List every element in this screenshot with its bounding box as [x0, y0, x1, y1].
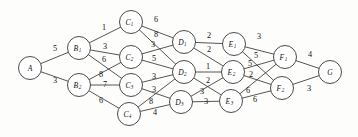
node-C1: C1 [120, 11, 143, 34]
edge-weight-F1-G: 4 [308, 50, 312, 59]
node-E1: E1 [223, 33, 246, 56]
edge-A-B1 [41, 52, 69, 63]
edge-C2-D2 [142, 60, 173, 69]
edge-C3-D2 [142, 75, 173, 83]
node-D2: D2 [173, 61, 196, 84]
edge-weight-A-B1: 5 [53, 44, 57, 53]
edge-weight-C2-D1: 3 [151, 40, 155, 49]
edge-weight-B2-C2: 8 [99, 70, 103, 79]
edge-weight-D2-E2: 1 [206, 62, 210, 71]
edge-C2-D1 [142, 45, 173, 54]
edge-weight-C3-D3: 3 [152, 85, 156, 94]
edge-weight-C4-D3: 4 [153, 108, 157, 117]
node-E2: E2 [222, 61, 245, 84]
network-diagram-canvas: 531368766835338422123335526643 AB1B2C1C2… [0, 0, 358, 137]
edge-B2-C2 [89, 62, 121, 79]
node-C4: C4 [118, 103, 141, 126]
edge-weight-B2-C4: 6 [99, 96, 103, 105]
node-F2: F2 [271, 77, 294, 100]
node-G: G [319, 61, 342, 84]
node-D1: D1 [173, 31, 196, 54]
node-D3: D3 [170, 91, 193, 114]
edge-weight-C3-D2: 3 [152, 72, 156, 81]
edge-weight-B1-C3: 6 [102, 55, 106, 64]
edge-weight-C4-D2: 8 [149, 97, 153, 106]
edge-weight-E1-F2: 5 [254, 51, 258, 60]
edge-weight-C1-D2: 8 [154, 30, 158, 39]
edge-weight-D1-E1: 2 [207, 31, 211, 40]
edge-weight-E3-F1: 6 [246, 86, 250, 95]
edge-F1-G [296, 61, 319, 69]
node-B2: B2 [68, 74, 91, 97]
node-label-A: A [27, 64, 33, 73]
node-F1: F1 [274, 46, 297, 69]
edge-weight-B2-C3: 7 [103, 80, 107, 89]
edge-weight-E1-F1: 3 [257, 32, 261, 41]
node-layer: AB1B2C1C2C3C4D1D2D3E1E2E3F1F2G [19, 11, 342, 126]
network-diagram-figure: 531368766835338422123335526643 AB1B2C1C2… [0, 0, 358, 137]
node-A: A [19, 57, 42, 80]
edge-E1-F1 [245, 47, 274, 54]
edge-weight-D1-E2: 2 [207, 45, 211, 54]
edge-weight-D3-E2: 3 [200, 87, 204, 96]
edge-weight-E2-F2: 2 [249, 70, 253, 79]
edge-D1-E1 [195, 42, 222, 43]
edge-weight-D3-E3: 3 [204, 97, 208, 106]
edge-weight-C1-D1: 6 [154, 15, 158, 24]
node-E3: E3 [220, 90, 243, 113]
node-B1: B1 [68, 37, 91, 60]
node-C3: C3 [120, 74, 143, 97]
edge-weight-C2-D2: 5 [152, 54, 156, 63]
node-label-G: G [327, 68, 333, 77]
edge-weight-F2-G: 3 [307, 84, 311, 93]
edge-B2-C4 [89, 91, 119, 108]
edge-weight-A-B2: 3 [53, 76, 57, 85]
node-C2: C2 [120, 46, 143, 69]
edge-weight-D2-E3: 2 [206, 76, 210, 85]
edge-weight-E3-F2: 6 [253, 95, 257, 104]
edge-weight-E2-F1: 5 [248, 59, 252, 68]
edge-weight-B1-C2: 3 [103, 42, 107, 51]
edge-weight-B1-C1: 1 [102, 23, 106, 32]
